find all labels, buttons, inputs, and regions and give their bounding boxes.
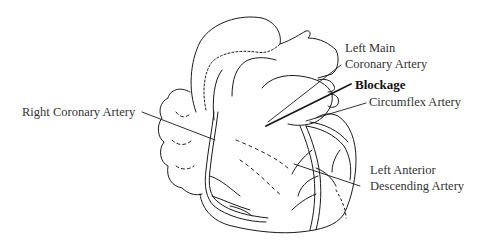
heart-diagram: Right Coronary Artery Left Main Coronary… (0, 0, 484, 248)
leader-lad (294, 164, 360, 186)
leader-right-coronary (142, 112, 215, 140)
left-atrium-outline (262, 76, 332, 126)
heart-illustration (0, 0, 484, 248)
label-right-coronary-artery: Right Coronary Artery (22, 105, 135, 120)
label-left-main-line1: Left Main (345, 41, 395, 56)
ventricle-outline (200, 114, 356, 233)
label-circumflex-artery: Circumflex Artery (369, 95, 461, 110)
right-atrium-outline (158, 89, 202, 195)
label-blockage: Blockage (355, 77, 406, 92)
aorta-inner (204, 44, 280, 110)
label-lad-line1: Left Anterior (370, 163, 436, 178)
circumflex-artery (306, 126, 351, 180)
label-lad-line2: Descending Artery (370, 179, 464, 194)
label-left-main-line2: Coronary Artery (345, 57, 427, 72)
